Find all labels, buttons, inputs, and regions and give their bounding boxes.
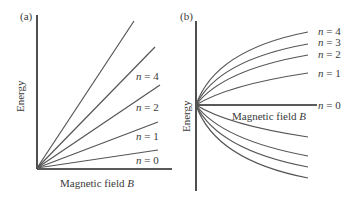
panel-a-label-n2: n = 2 — [136, 101, 159, 113]
landau-levels-diagram: (a) Energy Magnetic field B n = 4 n = 2 … — [0, 0, 360, 199]
panel-b-label-n2: n = 2 — [318, 48, 341, 60]
panel-b-label-n3: n = 3 — [318, 36, 341, 48]
panel-b-x-axis-label: Magnetic field B — [232, 110, 306, 122]
panel-a-label: (a) — [20, 10, 33, 23]
panel-b: (b) Energy Magnetic field B n = 4 n = 3 … — [180, 10, 341, 191]
panel-a: (a) Energy Magnetic field B n = 4 n = 2 … — [14, 10, 172, 189]
panel-a-y-axis-label: Energy — [14, 80, 26, 112]
panel-b-label-n1: n = 1 — [318, 67, 341, 79]
panel-a-label-n0: n = 0 — [136, 154, 159, 166]
energy-curve-n2 — [196, 55, 308, 105]
panel-b-label-n0: n = 0 — [318, 99, 341, 111]
panel-b-label: (b) — [180, 10, 193, 23]
panel-b-y-axis-label: Energy — [180, 100, 192, 132]
panel-a-x-axis-label: Magnetic field B — [60, 177, 134, 189]
energy-line — [37, 21, 134, 168]
panel-a-label-n4: n = 4 — [136, 70, 159, 82]
panel-a-energy-lines — [37, 21, 160, 168]
panel-a-label-n1: n = 1 — [136, 130, 159, 142]
